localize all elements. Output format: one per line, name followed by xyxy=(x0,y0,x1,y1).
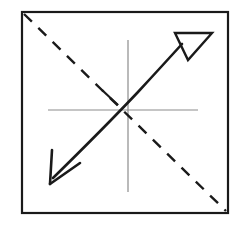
diagram-canvas xyxy=(0,0,245,225)
figure-container xyxy=(0,0,245,225)
